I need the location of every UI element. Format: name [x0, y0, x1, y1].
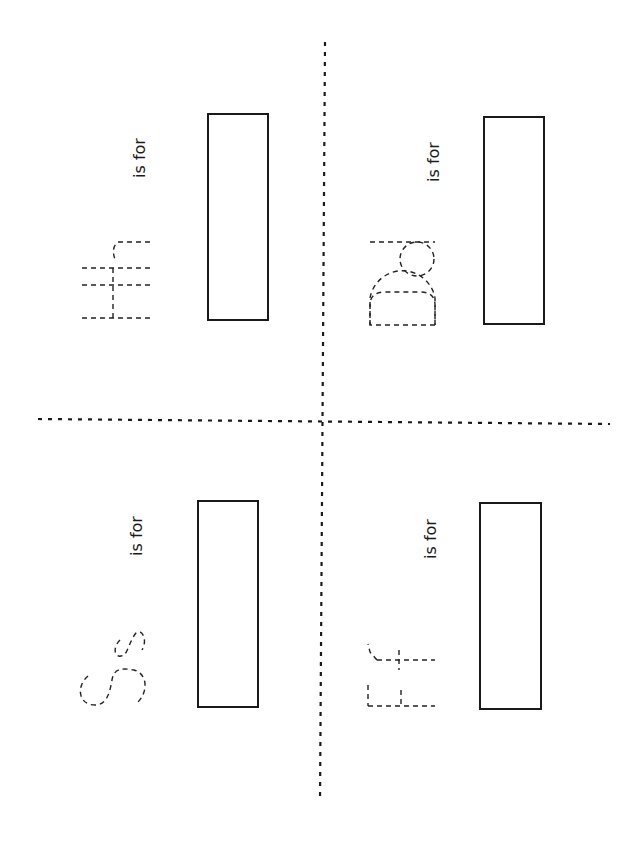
tracing-letters-Hh: [82, 242, 150, 318]
is-for-label: is for: [131, 128, 149, 188]
tracing-letters-Dd: [370, 242, 435, 325]
worksheet-page: is for is for is for is for: [0, 0, 636, 846]
is-for-label: is for: [128, 506, 146, 566]
answer-box[interactable]: [197, 500, 259, 708]
tracing-letters-Ss: [80, 632, 145, 705]
horizontal-cut-line: [38, 419, 610, 424]
is-for-label: is for: [425, 132, 443, 192]
answer-box[interactable]: [483, 116, 545, 325]
tracing-letters-Ff: [368, 644, 435, 706]
answer-box[interactable]: [207, 113, 269, 321]
is-for-label: is for: [422, 509, 440, 569]
answer-box[interactable]: [479, 502, 542, 710]
